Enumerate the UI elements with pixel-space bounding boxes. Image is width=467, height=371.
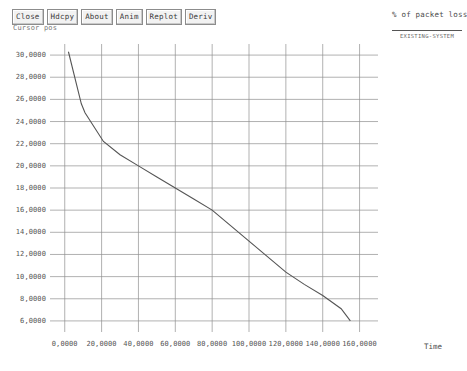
legend: EXISTING-SYSTEM [392,30,464,39]
chart-title: % of packet loss [392,10,467,19]
y-axis-tick-label: 30,0000 [4,51,46,59]
y-axis-tick-label: 8,0000 [4,295,46,303]
plot-canvas [50,44,378,332]
y-axis-tick-label: 22,0000 [4,140,46,148]
legend-label: EXISTING-SYSTEM [392,33,462,39]
plot-area[interactable] [50,44,378,332]
y-axis-tick-label: 16,0000 [4,206,46,214]
y-axis-tick-label: 24,0000 [4,118,46,126]
y-axis-tick-label: 20,0000 [4,162,46,170]
replot-button[interactable]: Replot [146,9,182,25]
y-axis-tick-label: 6,0000 [4,317,46,325]
y-axis-tick-label: 26,0000 [4,95,46,103]
animate-button[interactable]: Anim [116,9,143,25]
derivative-button[interactable]: Deriv [185,9,217,25]
legend-line-swatch [392,30,462,31]
x-axis-tick-label: 160,0000 [332,340,388,348]
y-axis-tick-label: 18,0000 [4,184,46,192]
cursor-position-readout: Cursor pos [13,24,57,32]
y-axis-tick-label: 12,0000 [4,250,46,258]
about-button[interactable]: About [81,9,113,25]
x-axis-title: Time [424,342,442,351]
hardcopy-button[interactable]: Hdcpy [47,9,79,25]
y-axis-tick-label: 14,0000 [4,228,46,236]
data-series-line [68,52,350,321]
close-button[interactable]: Close [12,9,44,25]
y-axis-tick-label: 28,0000 [4,73,46,81]
toolbar: CloseHdcpyAboutAnimReplotDeriv [12,9,216,25]
y-axis-tick-label: 10,0000 [4,273,46,281]
